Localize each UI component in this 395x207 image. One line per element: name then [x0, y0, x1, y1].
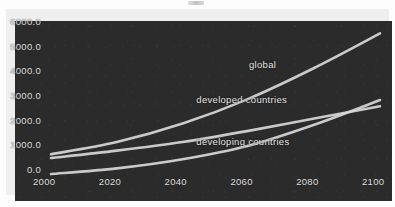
y-tick-label: 5000.0	[10, 41, 41, 52]
y-tick-label: 2000.0	[10, 115, 41, 126]
scan-artifact	[188, 1, 204, 5]
y-tick-label: 4000.0	[10, 65, 41, 76]
y-tick-label: 1000.0	[10, 139, 41, 150]
series-label-developed-countries: developed countries	[196, 94, 287, 105]
y-tick-label: 3000.0	[10, 90, 41, 101]
series-lines	[15, 21, 392, 201]
series-label-developing-countries: developing countries	[196, 136, 289, 147]
chart-page: 6000.05000.04000.03000.02000.01000.00.0 …	[0, 0, 395, 207]
series-line-developed-countries	[51, 106, 380, 158]
series-label-global: global	[249, 59, 276, 70]
y-tick-label: 6000.0	[10, 16, 41, 27]
plot-area	[15, 21, 392, 201]
x-tick-label: 2100	[0, 176, 395, 187]
y-tick-label: 0.0	[27, 164, 41, 175]
